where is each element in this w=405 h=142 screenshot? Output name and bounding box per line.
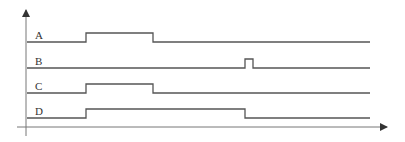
signal-c-label: C	[35, 80, 42, 92]
timing-diagram: ABCD	[0, 0, 405, 142]
signal-a-label: A	[35, 29, 43, 41]
signal-b-label: B	[35, 55, 42, 67]
signal-b-waveform	[27, 59, 370, 68]
signal-c-waveform	[27, 84, 370, 93]
signal-a-waveform	[27, 33, 370, 42]
signal-d-label: D	[35, 105, 43, 117]
signal-d-waveform	[27, 109, 370, 118]
